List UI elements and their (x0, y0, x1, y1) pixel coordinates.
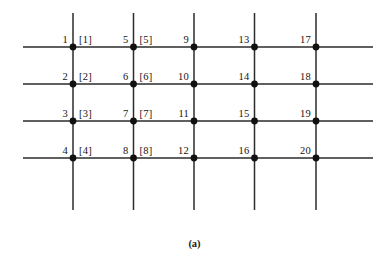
grid-node-marker (130, 118, 137, 125)
grid-node-marker (251, 81, 258, 88)
node-number-label: 2 (63, 72, 68, 83)
node-number-label: 20 (300, 146, 311, 157)
node-number-label: 7 (123, 109, 128, 120)
grid-node-marker (313, 118, 320, 125)
node-number-label: 6 (123, 72, 128, 83)
node-number-label: 3 (63, 109, 68, 120)
grid-node-marker (130, 81, 137, 88)
grid-node-marker (70, 118, 77, 125)
node-number-label: 4 (63, 146, 68, 157)
node-number-label: 8 (123, 146, 128, 157)
grid-node-figure: 1[1]2[2]3[3]4[4]5[5]6[6]7[7]8[8]91011121… (0, 0, 389, 267)
node-number-label: 9 (184, 35, 189, 46)
node-number-label: 16 (239, 146, 250, 157)
node-number-label: 15 (239, 109, 250, 120)
node-number-label: 5 (123, 35, 128, 46)
grid-node-marker (313, 155, 320, 162)
figure-caption: (a) (0, 238, 389, 249)
node-bracket-label: [2] (79, 72, 92, 83)
grid-node-marker (191, 155, 198, 162)
grid-node-marker (251, 44, 258, 51)
node-number-label: 17 (300, 35, 311, 46)
grid-lines-canvas (0, 0, 389, 267)
grid-node-marker (191, 81, 198, 88)
grid-node-marker (191, 44, 198, 51)
node-bracket-label: [8] (140, 146, 153, 157)
grid-node-marker (70, 81, 77, 88)
node-number-label: 10 (178, 72, 189, 83)
node-number-label: 14 (239, 72, 250, 83)
grid-node-marker (130, 155, 137, 162)
horizontal-grid-lines (23, 47, 373, 158)
node-bracket-label: [1] (79, 35, 92, 46)
node-number-label: 13 (239, 35, 250, 46)
node-bracket-label: [4] (79, 146, 92, 157)
node-number-label: 19 (300, 109, 311, 120)
grid-node-marker (313, 44, 320, 51)
node-bracket-label: [5] (140, 35, 153, 46)
grid-node-marker (70, 155, 77, 162)
node-number-label: 1 (63, 35, 68, 46)
grid-node-marker (251, 155, 258, 162)
grid-node-marker (191, 118, 198, 125)
grid-node-marker (130, 44, 137, 51)
grid-node-marker (251, 118, 258, 125)
node-bracket-label: [6] (140, 72, 153, 83)
node-number-label: 18 (300, 72, 311, 83)
grid-node-marker (313, 81, 320, 88)
node-bracket-label: [7] (140, 109, 153, 120)
grid-node-marker (70, 44, 77, 51)
node-number-label: 11 (178, 109, 189, 120)
node-bracket-label: [3] (79, 109, 92, 120)
vertical-grid-lines (73, 13, 316, 210)
node-number-label: 12 (178, 146, 189, 157)
